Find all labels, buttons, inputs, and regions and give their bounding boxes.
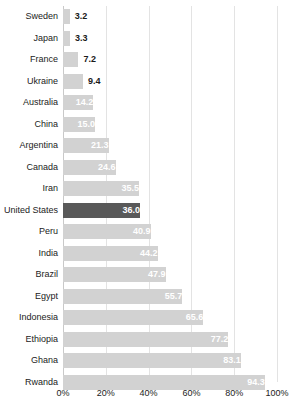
category-label: Rwanda <box>0 372 58 394</box>
bar-row: 47.9 <box>63 264 277 286</box>
bar-chart: SwedenJapanFranceUkraineAustraliaChinaAr… <box>0 0 289 418</box>
bar-row: 15.0 <box>63 114 277 136</box>
bar-rows: 3.23.37.29.414.215.021.324.635.536.040.9… <box>63 6 277 382</box>
bar-value-label: 14.2 <box>63 95 97 110</box>
category-label: Ukraine <box>0 71 58 93</box>
bar-value-label: 77.2 <box>63 332 232 347</box>
x-tick-label: 60% <box>182 388 200 398</box>
category-label: Ethiopia <box>0 329 58 351</box>
category-label: France <box>0 49 58 71</box>
category-label: Canada <box>0 157 58 179</box>
bar-value-label: 3.3 <box>70 31 88 46</box>
bar-row: 7.2 <box>63 49 277 71</box>
bar-row: 21.3 <box>63 135 277 157</box>
bar-value-label: 24.6 <box>63 160 120 175</box>
category-label: Japan <box>0 28 58 50</box>
bar-row: 3.3 <box>63 28 277 50</box>
bar-value-label: 3.2 <box>70 9 88 24</box>
category-label: Indonesia <box>0 307 58 329</box>
bar-row: 36.0 <box>63 200 277 222</box>
x-tick-label: 0% <box>56 388 69 398</box>
gridline-100% <box>277 6 278 382</box>
bar-row: 55.7 <box>63 286 277 308</box>
category-label: Australia <box>0 92 58 114</box>
x-tick-label: 80% <box>225 388 243 398</box>
bar-value-label: 40.9 <box>63 224 155 239</box>
bar-value-label: 7.2 <box>78 52 96 67</box>
x-tick-label: 40% <box>140 388 158 398</box>
bar-value-label: 35.5 <box>63 181 143 196</box>
bar-row: 14.2 <box>63 92 277 114</box>
value-axis-labels: 0%20%40%60%80%100% <box>63 384 277 404</box>
bar-value-label: 21.3 <box>63 138 113 153</box>
bar-value-label: 55.7 <box>63 289 186 304</box>
bar-row: 77.2 <box>63 329 277 351</box>
bar-row: 3.2 <box>63 6 277 28</box>
x-tick-label: 20% <box>97 388 115 398</box>
bar-row: 35.5 <box>63 178 277 200</box>
category-label: India <box>0 243 58 265</box>
bar <box>63 9 70 24</box>
bar-row: 65.6 <box>63 307 277 329</box>
bar-value-label: 83.1 <box>63 353 245 368</box>
bar-row: 24.6 <box>63 157 277 179</box>
bar-value-label: 47.9 <box>63 267 170 282</box>
bar-value-label: 15.0 <box>63 117 99 132</box>
category-label: Argentina <box>0 135 58 157</box>
bar-row: 40.9 <box>63 221 277 243</box>
plot-area: 3.23.37.29.414.215.021.324.635.536.040.9… <box>63 6 277 382</box>
category-label: Ghana <box>0 350 58 372</box>
category-label: United States <box>0 200 58 222</box>
category-label: China <box>0 114 58 136</box>
category-label: Egypt <box>0 286 58 308</box>
bar <box>63 31 70 46</box>
bar-row: 9.4 <box>63 71 277 93</box>
category-label: Sweden <box>0 6 58 28</box>
bar-row: 83.1 <box>63 350 277 372</box>
bar <box>63 52 78 67</box>
category-axis-labels: SwedenJapanFranceUkraineAustraliaChinaAr… <box>0 6 58 382</box>
category-label: Brazil <box>0 264 58 286</box>
bar-value-label: 44.2 <box>63 246 162 261</box>
x-tick-label: 100% <box>265 388 288 398</box>
category-label: Peru <box>0 221 58 243</box>
bar-value-label: 65.6 <box>63 310 207 325</box>
category-label: Iran <box>0 178 58 200</box>
bar-value-label: 9.4 <box>83 74 101 89</box>
bar-row: 44.2 <box>63 243 277 265</box>
bar <box>63 74 83 89</box>
bar-value-label: 36.0 <box>63 203 144 218</box>
